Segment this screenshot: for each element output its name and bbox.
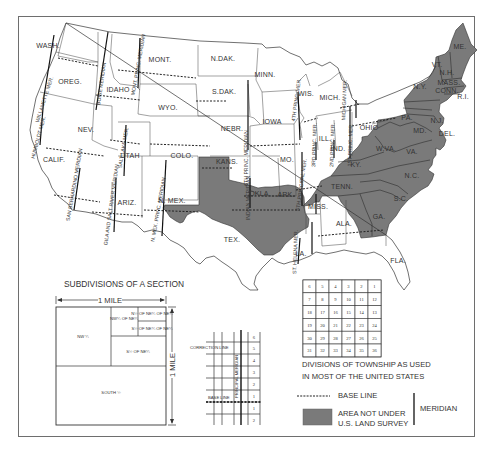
meridian-label: WILLAMETTE MER. <box>34 76 54 123</box>
svg-text:2: 2 <box>253 418 256 423</box>
svg-text:4: 4 <box>253 358 256 363</box>
township-section-number: 29 <box>320 336 325 341</box>
state-label: MD. <box>413 127 426 134</box>
state-label: WASH. <box>36 42 60 49</box>
range-numbers: 6 5 4 3 2 1 1 2 <box>253 335 256 423</box>
township-section-number: 18 <box>307 310 312 315</box>
svg-text:1: 1 <box>253 406 256 411</box>
state-label: W.VA. <box>376 145 396 152</box>
township-section-number: 21 <box>333 323 338 328</box>
township-section-number: 25 <box>372 336 377 341</box>
township-section-number: 16 <box>333 310 338 315</box>
township-section-number: 10 <box>346 297 351 302</box>
section-diagram-title: SUBDIVISIONS OF A SECTION <box>64 279 184 289</box>
south-half-label: SOUTH ½ <box>101 390 121 395</box>
meridian-label: BOISE MERIDIAN <box>95 62 107 105</box>
base-line-legend-label: BASE LINE <box>338 391 377 400</box>
state-label: S.C. <box>394 195 408 202</box>
state-label: CALIF. <box>43 156 65 163</box>
township-section-number: 32 <box>320 348 325 353</box>
township-grid-caption-line1: DIVISIONS OF TOWNSHIP AS USED <box>302 360 431 369</box>
state-label: TEX. <box>224 236 240 243</box>
state-label: N.DAK. <box>211 55 236 62</box>
state-label: IDAHO <box>106 86 130 93</box>
state-label: PA. <box>401 114 412 121</box>
state-label: ARK. <box>277 191 294 198</box>
meridian-label: HUMBOLDT MER. <box>30 116 47 160</box>
state-label: MICH. <box>320 94 341 101</box>
width-label: 1 MILE <box>98 296 122 305</box>
svg-text:2: 2 <box>253 382 256 387</box>
township-line-diagram: CORRECTION LINE BASE LINE PRINCIPAL MERI… <box>190 330 262 425</box>
meridian-legend-label: MERIDIAN <box>420 404 457 413</box>
township-section-number: 12 <box>372 297 377 302</box>
township-section-number: 17 <box>320 310 325 315</box>
state-label: IOWA <box>262 118 281 125</box>
township-section-number: 33 <box>333 348 338 353</box>
township-grid: 6543217891011121817161514131920212223243… <box>303 280 381 357</box>
state-label: MASS. <box>438 79 461 86</box>
township-section-number: 22 <box>346 323 351 328</box>
state-label: N.J. <box>430 117 443 124</box>
land-survey-map-figure: WASH.OREG.CALIF.NEV.IDAHOMONT.WYO.UTAHCO… <box>0 0 504 449</box>
township-section-number: 11 <box>359 297 364 302</box>
state-label: R.I. <box>457 93 469 100</box>
state-label: KANS. <box>216 158 238 165</box>
state-label: DEL. <box>439 130 455 137</box>
township-section-number: 31 <box>307 348 312 353</box>
state-label: ME. <box>453 43 466 50</box>
state-label: COLO. <box>171 152 194 159</box>
state-label: MINN. <box>255 71 276 78</box>
correction-line-label: CORRECTION LINE <box>190 345 229 350</box>
section-diagram: SUBDIVISIONS OF A SECTION 1 MILE NW ¼ NW… <box>56 279 184 425</box>
state-label: NEBR. <box>221 125 243 132</box>
unsurveyed-legend-label-line2: U.S. LAND SURVEY <box>338 419 408 428</box>
state-label: N.Y. <box>413 83 427 90</box>
n-half-ne-ne-label: N½ OF NE¼ OF NE¼ <box>131 311 173 316</box>
township-section-number: 27 <box>346 336 351 341</box>
state-label: S.DAK. <box>212 88 236 95</box>
state-label: FLA. <box>390 257 406 264</box>
svg-text:1: 1 <box>253 394 256 399</box>
state-label: OKLA. <box>249 190 271 197</box>
meridian-label: 2ND PRINC. MER. <box>328 123 336 167</box>
township-section-number: 13 <box>372 310 377 315</box>
state-label: VA. <box>406 148 417 155</box>
state-label: VT. <box>432 61 443 68</box>
township-section-number: 30 <box>307 336 312 341</box>
nw-of-ne-label: NW¼ OF NE¼ <box>110 316 138 321</box>
nw-quarter-label: NW ¼ <box>77 334 89 339</box>
township-section-number: 23 <box>359 323 364 328</box>
arrowhead-down-icon <box>170 419 174 424</box>
state-label: CONN. <box>435 87 459 94</box>
township-section-number: 20 <box>320 323 325 328</box>
principal-meridian-label: PRINCIPAL MERIDIAN <box>234 355 239 398</box>
meridian-label: ST. HELENA MER. <box>291 230 299 274</box>
state-label: NEV. <box>78 126 95 133</box>
state-label: ALA. <box>336 220 352 227</box>
state-label: ARIZ. <box>118 199 137 206</box>
unsurveyed-legend-swatch-icon <box>303 409 332 425</box>
township-section-number: 28 <box>333 336 338 341</box>
legend: BASE LINE AREA NOT UNDER U.S. LAND SURVE… <box>297 391 457 428</box>
meridian-label: 3RD PRINC. MER. <box>310 123 318 167</box>
unsurveyed-legend-label-line1: AREA NOT UNDER <box>338 409 406 418</box>
base-line-label: BASE LINE <box>208 395 230 400</box>
township-section-number: 26 <box>359 336 364 341</box>
township-section-number: 15 <box>346 310 351 315</box>
state-label: OHIO <box>360 124 379 131</box>
meridian-label: 4TH PRINC. MER. <box>290 78 302 122</box>
svg-text:5: 5 <box>253 346 256 351</box>
height-label: 1 MILE <box>168 353 177 377</box>
figure-caption-faint <box>20 438 490 444</box>
state-label: N.C. <box>405 172 420 179</box>
s-half-of-ne-label: S½ OF NE¼ <box>126 349 150 354</box>
state-label: MONT. <box>149 56 172 63</box>
township-section-number: 14 <box>359 310 364 315</box>
state-label: OREG. <box>58 78 82 85</box>
township-section-number: 36 <box>372 348 377 353</box>
township-section-number: 19 <box>307 323 312 328</box>
meridian-label: INDIAN MERIDIAN <box>245 176 251 221</box>
arrowhead-right-icon <box>160 298 165 302</box>
state-label: TENN. <box>331 183 353 190</box>
